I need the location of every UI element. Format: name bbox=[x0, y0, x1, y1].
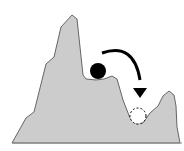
ball-icon bbox=[90, 63, 106, 79]
curved-arrow-icon bbox=[102, 51, 140, 80]
landscape-diagram bbox=[0, 0, 184, 151]
terrain-mountain bbox=[12, 15, 180, 143]
target-dashed-circle-icon bbox=[130, 108, 146, 124]
diagram-canvas bbox=[0, 0, 184, 151]
arrow-head-icon bbox=[133, 88, 147, 98]
